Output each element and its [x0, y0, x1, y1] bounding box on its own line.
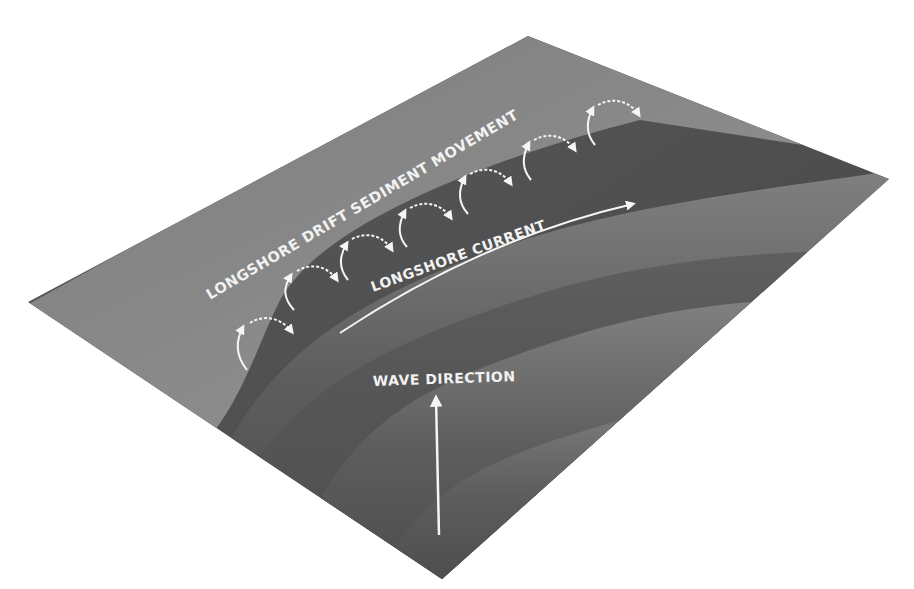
plane [0, 0, 914, 589]
longshore-drift-diagram: LONGSHORE DRIFT SEDIMENT MOVEMENT LONGSH… [0, 0, 914, 589]
